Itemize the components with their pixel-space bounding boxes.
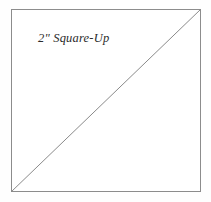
square-up-label: 2" Square-Up (38, 31, 109, 46)
square-up-diagram: 2" Square-Up (0, 0, 211, 202)
